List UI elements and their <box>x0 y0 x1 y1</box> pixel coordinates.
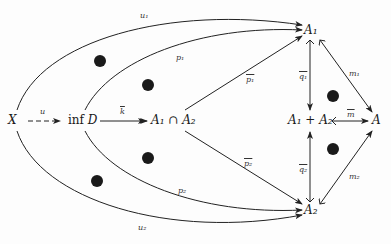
edge-m1 <box>320 40 372 112</box>
commutes-dot <box>327 143 339 155</box>
node-A: A <box>372 114 381 126</box>
edge-p1 <box>85 30 302 110</box>
label-k-bar: k <box>120 108 125 116</box>
commutes-dot <box>327 90 339 102</box>
edge-p2 <box>85 131 302 210</box>
commutes-dot <box>91 175 103 187</box>
label-p2-bar: p₂ <box>244 160 252 168</box>
node-A2: A₂ <box>304 204 317 216</box>
diagram-canvas: X inf D A₁ ∩ A₂ A₁ A₂ A₁ + A₂ A u k u₁ p… <box>0 0 391 244</box>
label-p1: p₁ <box>176 54 184 62</box>
label-u: u <box>40 108 45 116</box>
commutes-dot <box>142 152 154 164</box>
node-infD-prefix: inf <box>68 113 84 127</box>
label-m2: m₂ <box>349 173 360 181</box>
label-p1-bar: p₁ <box>246 76 254 84</box>
commutes-dot <box>94 55 106 67</box>
node-A1-cap-A2: A₁ ∩ A₂ <box>151 114 196 126</box>
label-m1: m₁ <box>349 70 360 78</box>
node-A1: A₁ <box>304 24 317 36</box>
edge-u1 <box>17 19 302 110</box>
node-X: X <box>8 114 17 126</box>
label-p2: p₂ <box>178 187 186 195</box>
node-infD-var: D <box>88 113 98 127</box>
label-u2: u₂ <box>138 224 146 232</box>
label-q2-bar: q₂ <box>299 166 307 174</box>
node-infD: inf D <box>68 114 97 126</box>
commutes-dot <box>142 79 154 91</box>
edge-p1-bar <box>185 36 302 110</box>
label-q1-bar: q₁ <box>299 73 307 81</box>
label-m-bar: m <box>347 111 355 119</box>
label-u1: u₁ <box>140 12 148 20</box>
node-A1-plus-A2: A₁ + A₂ <box>288 114 333 126</box>
edge-m2 <box>320 131 372 204</box>
